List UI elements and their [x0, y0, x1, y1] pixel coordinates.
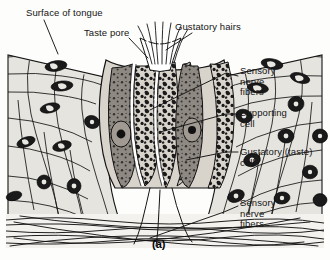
label-taste-pore: Taste pore — [84, 28, 129, 39]
label-sensory-nerve-fibers-lower: Sensory nerve fibers — [240, 198, 276, 230]
label-supporting-cell: Supporting cell — [240, 108, 287, 129]
figure-caption: (a) — [152, 238, 165, 250]
label-sensory-nerve-fibers-upper: Sensory nerve fibers — [240, 66, 276, 98]
label-surface-of-tongue: Surface of tongue — [26, 8, 103, 19]
taste-bud-figure: Surface of tongue Taste pore Gustatory h… — [0, 0, 330, 260]
label-gustatory-hairs: Gustatory hairs — [175, 22, 241, 33]
label-gustatory-taste-cell: Gustatory (taste) cell — [240, 147, 312, 168]
taste-bud-diagram — [0, 0, 330, 260]
